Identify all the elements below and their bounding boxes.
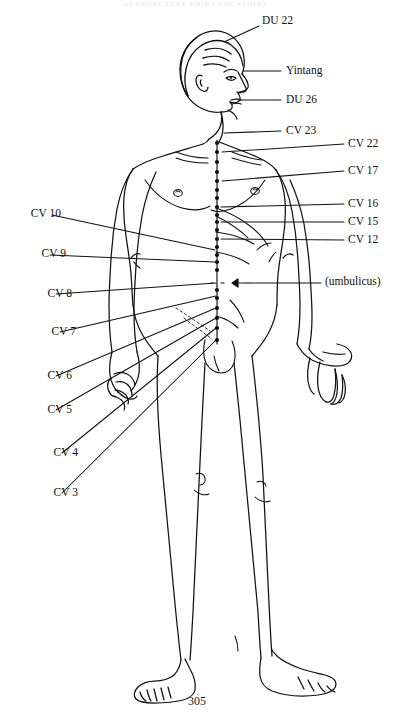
right-hand — [297, 344, 352, 404]
elbow-crease — [131, 254, 140, 258]
flank-chevron — [269, 252, 276, 262]
eye — [224, 70, 237, 81]
legs — [157, 356, 272, 660]
point-label-cv10: CV 10 — [0, 208, 61, 220]
point-label-cv12: CV 12 — [348, 234, 378, 246]
nose — [237, 72, 246, 93]
point-label-du26: DU 26 — [286, 94, 317, 106]
meridian-point — [215, 213, 219, 217]
abdomen-contours — [216, 208, 271, 264]
point-label-cv23: CV 23 — [286, 125, 316, 137]
point-label-du22: DU 22 — [262, 15, 293, 27]
head-outline — [181, 31, 249, 139]
leader-line-cv23 — [224, 131, 281, 133]
point-label-cv22: CV 22 — [348, 138, 378, 150]
meridian-point — [215, 237, 219, 241]
meridian-point — [215, 141, 219, 145]
meridian-point — [215, 220, 219, 224]
knuckle-line — [323, 352, 345, 354]
ankle-marks — [235, 636, 238, 651]
meridian-point — [215, 196, 219, 200]
point-label-cv15: CV 15 — [348, 216, 378, 228]
point-label-cv16: CV 16 — [348, 198, 378, 210]
meridian-point — [215, 268, 219, 272]
ear — [196, 75, 208, 91]
meridian-point — [215, 245, 219, 249]
figure-page: ACUPUNCTURE POINT LOCATIONS — [0, 0, 394, 716]
point-label-cv6: CV 6 — [0, 370, 72, 382]
point-label-umb: (umbulicus) — [325, 276, 381, 288]
meridian-point — [215, 150, 219, 154]
point-label-cv4: CV 4 — [0, 447, 78, 459]
left-hand — [108, 352, 140, 410]
leader-line-cv22 — [222, 144, 344, 152]
meridian-point — [215, 188, 219, 192]
hair — [180, 38, 243, 96]
anatomical-figure — [0, 0, 394, 716]
meridian-point — [215, 160, 219, 164]
elbow-crease-r — [283, 254, 293, 258]
point-label-cv5: CV 5 — [0, 404, 72, 416]
point-label-cv17: CV 17 — [348, 165, 378, 177]
point-label-cv9: CV 9 — [0, 248, 66, 260]
meridian-point — [215, 260, 219, 264]
left-arm — [109, 169, 156, 352]
page-number: 305 — [0, 694, 394, 709]
point-label-cv8: CV 8 — [0, 288, 72, 300]
point-label-cv3: CV 3 — [0, 487, 78, 499]
knee-marks — [194, 473, 270, 502]
meridian-point — [215, 228, 219, 232]
elbow-crease-2 — [134, 262, 140, 268]
leader-line-cv17 — [222, 171, 344, 181]
meridian-point — [215, 170, 219, 174]
flank-mark — [257, 243, 271, 250]
meridian-point — [215, 288, 219, 292]
meridian-point — [215, 205, 219, 209]
meridian-point — [215, 179, 219, 183]
right-arm — [276, 170, 312, 349]
leader-line-cv4 — [62, 328, 216, 453]
leader-line-cv8 — [56, 283, 216, 294]
right-foot — [260, 650, 336, 696]
leader-line-cv10 — [52, 215, 215, 250]
torso-outline — [124, 169, 286, 356]
neck-and-shoulders — [133, 112, 276, 170]
point-label-cv7: CV 7 — [0, 326, 76, 338]
point-label-yintang: Yintang — [286, 65, 322, 77]
meridian-point — [215, 253, 219, 257]
chin — [228, 110, 237, 119]
leader-line-cv12 — [221, 239, 344, 240]
